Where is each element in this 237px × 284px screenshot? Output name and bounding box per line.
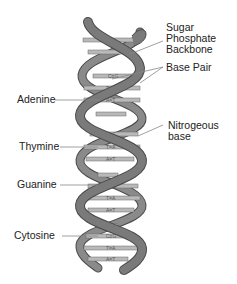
label-base-pair: Base Pair bbox=[166, 62, 212, 73]
base-pair-bar: A=T bbox=[88, 207, 134, 213]
backbone-curl-top bbox=[132, 30, 146, 46]
svg-text:A=T: A=T bbox=[106, 256, 115, 262]
label-line: Backbone bbox=[166, 44, 216, 55]
label-sugar-phosphate-backbone: Sugar Phosphate Backbone bbox=[166, 22, 216, 55]
svg-text:T=A: T=A bbox=[106, 245, 116, 251]
label-line: Base Pair bbox=[166, 62, 212, 73]
label-nitrogeous-base: Nitrogeous base bbox=[168, 120, 219, 142]
label-line: base bbox=[168, 131, 219, 142]
base-pair-bar: A=T bbox=[86, 156, 134, 162]
label-cytosine: Cytosine bbox=[14, 230, 55, 241]
base-pair-bar: A=T bbox=[88, 256, 128, 262]
svg-text:A=T: A=T bbox=[106, 207, 115, 213]
svg-text:T=A: T=A bbox=[106, 195, 116, 201]
base-pair-bar: T=A bbox=[84, 245, 140, 251]
base-pair-bar bbox=[96, 112, 126, 116]
label-guanine: Guanine bbox=[17, 179, 57, 190]
svg-text:A=T: A=T bbox=[106, 156, 115, 162]
label-adenine: Adenine bbox=[17, 94, 56, 105]
dna-diagram: G≡C C≡G T=A A=T G≡C T=A A=T G≡C T=A A=T … bbox=[0, 0, 237, 284]
label-thymine: Thymine bbox=[19, 141, 59, 152]
